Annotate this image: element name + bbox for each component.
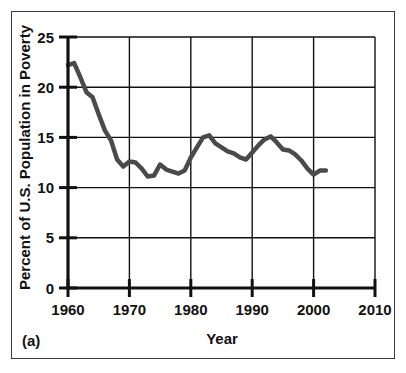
axis-lines — [68, 37, 375, 288]
x-tick-label: 1960 — [51, 301, 84, 318]
y-axis-tick-labels: 0510152025 — [37, 29, 54, 297]
x-tick-label: 1970 — [113, 301, 146, 318]
y-tick-label: 10 — [37, 179, 54, 196]
figure-panel: 0510152025 196019701980199020002010 Perc… — [0, 0, 406, 373]
y-tick-label: 15 — [37, 129, 54, 146]
y-tick-label: 0 — [46, 280, 54, 297]
x-tick-label: 2010 — [358, 301, 391, 318]
x-axis-title: Year — [206, 330, 238, 347]
y-tick-label: 5 — [46, 229, 54, 246]
x-tick-label: 2000 — [297, 301, 330, 318]
y-axis-title: Percent of U.S. Population in Poverty — [16, 24, 33, 290]
x-tick-label: 1990 — [236, 301, 269, 318]
x-tick-label: 1980 — [174, 301, 207, 318]
panel-label: (a) — [22, 332, 40, 349]
y-tick-label: 20 — [37, 79, 54, 96]
poverty-line-chart: 0510152025 196019701980199020002010 Perc… — [0, 0, 406, 373]
y-tick-label: 25 — [37, 29, 54, 46]
gridlines — [68, 37, 375, 288]
x-axis-tick-labels: 196019701980199020002010 — [51, 301, 391, 318]
poverty-data-line — [68, 63, 326, 176]
